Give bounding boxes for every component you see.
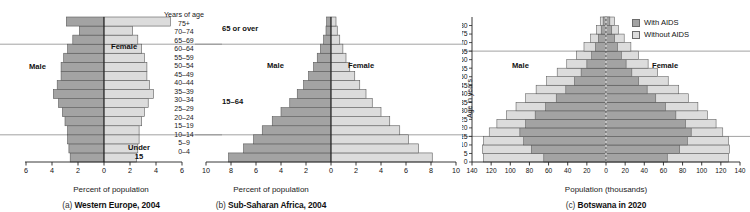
legend-label-with-aids: With AIDS [644, 18, 679, 27]
without-aids-swatch-icon [632, 31, 640, 39]
panel-sub-saharan-africa: 1086420246810 Male Female Percent of pop… [195, 0, 465, 212]
svg-text:2: 2 [304, 166, 308, 175]
svg-text:6: 6 [404, 166, 408, 175]
svg-text:4: 4 [50, 166, 54, 175]
svg-text:80: 80 [679, 167, 687, 174]
svg-text:8: 8 [429, 166, 433, 175]
svg-text:100: 100 [696, 167, 707, 174]
svg-text:120: 120 [715, 167, 726, 174]
svg-text:80: 80 [462, 22, 468, 29]
panel-b-caption: (b) Sub-Saharan Africa, 2004 [136, 200, 406, 210]
svg-text:100: 100 [505, 167, 516, 174]
svg-text:4: 4 [279, 166, 283, 175]
svg-text:4: 4 [379, 166, 383, 175]
svg-text:0: 0 [329, 166, 333, 175]
panel-b-caption-prefix: (b) [216, 200, 226, 210]
with-aids-swatch-icon [632, 19, 640, 27]
legend-item-without-aids: Without AIDS [632, 30, 689, 39]
svg-text:140: 140 [466, 167, 477, 174]
panel-c-female-label: Female [652, 61, 678, 70]
panel-botswana: 1401201008060402002040608010012014005101… [462, 0, 750, 212]
svg-text:0: 0 [102, 166, 106, 175]
svg-text:10: 10 [202, 166, 210, 175]
svg-text:80: 80 [526, 167, 534, 174]
svg-text:60: 60 [462, 56, 468, 63]
svg-text:10: 10 [462, 141, 468, 148]
population-pyramids-figure: 6420246 Male Female Under 15 Percent of … [0, 0, 750, 212]
svg-text:60: 60 [660, 167, 668, 174]
svg-text:40: 40 [564, 167, 572, 174]
svg-text:10: 10 [452, 166, 460, 175]
svg-text:120: 120 [486, 167, 497, 174]
svg-text:4: 4 [154, 166, 158, 175]
panel-c-axis-title: Population (thousands) [462, 185, 750, 194]
svg-text:0: 0 [604, 167, 608, 174]
panel-c-caption: (c) Botswana in 2020 [462, 200, 750, 210]
panel-c-male-label: Male [512, 61, 529, 70]
svg-text:65: 65 [462, 48, 468, 55]
svg-text:55: 55 [462, 65, 468, 72]
svg-text:0: 0 [464, 158, 468, 165]
panel-b-plot: 1086420246810 [195, 0, 465, 212]
panel-b-axis-title: Percent of population [136, 185, 406, 194]
svg-text:70: 70 [462, 39, 468, 46]
panel-c-plot: 1401201008060402002040608010012014005101… [462, 0, 750, 212]
panel-a-caption-prefix: (a) [62, 200, 72, 210]
svg-text:140: 140 [734, 167, 745, 174]
svg-text:20: 20 [621, 167, 629, 174]
panel-a-under15-line2: 15 [121, 152, 157, 161]
panel-a-under15-line1: Under [121, 143, 157, 152]
svg-text:40: 40 [641, 167, 649, 174]
legend-label-without-aids: Without AIDS [644, 30, 689, 39]
svg-text:6: 6 [180, 166, 184, 175]
svg-text:15: 15 [462, 133, 468, 140]
panel-c-caption-title: Botswana in 2020 [578, 200, 647, 210]
panel-b-caption-title: Sub-Saharan Africa, 2004 [228, 200, 326, 210]
panel-c-caption-prefix: (c) [566, 200, 575, 210]
svg-text:20: 20 [583, 167, 591, 174]
panel-b-male-label: Male [267, 61, 284, 70]
panel-c-legend: With AIDS Without AIDS [632, 18, 689, 42]
svg-text:6: 6 [24, 166, 28, 175]
svg-text:75: 75 [462, 30, 468, 37]
panel-c-y-axis-title: Age in years [466, 79, 473, 118]
panel-a-female-label: Female [111, 42, 137, 51]
panel-b-female-label: Female [348, 61, 374, 70]
panel-a-male-label: Male [29, 62, 46, 71]
svg-text:60: 60 [545, 167, 553, 174]
svg-text:20: 20 [462, 124, 468, 131]
svg-text:5: 5 [464, 150, 468, 157]
svg-text:8: 8 [229, 166, 233, 175]
svg-text:2: 2 [76, 166, 80, 175]
legend-item-with-aids: With AIDS [632, 18, 689, 27]
svg-text:2: 2 [354, 166, 358, 175]
svg-text:6: 6 [254, 166, 258, 175]
svg-text:2: 2 [128, 166, 132, 175]
